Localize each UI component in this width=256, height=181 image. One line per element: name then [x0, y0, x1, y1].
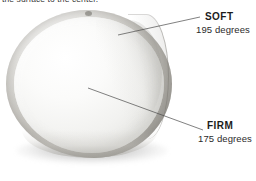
rind-top-notch: [85, 11, 92, 16]
callout-firm-title: FIRM: [207, 120, 252, 132]
callout-firm-value: 175 degrees: [198, 132, 252, 145]
rind-edge-right: [128, 14, 169, 139]
callout-firm: FIRM 175 degrees: [207, 120, 252, 145]
callout-soft-title: SOFT: [205, 11, 250, 23]
callout-soft-value: 195 degrees: [196, 23, 250, 36]
callout-soft: SOFT 195 degrees: [205, 11, 250, 36]
cheese-wheel-photo: [0, 0, 190, 181]
